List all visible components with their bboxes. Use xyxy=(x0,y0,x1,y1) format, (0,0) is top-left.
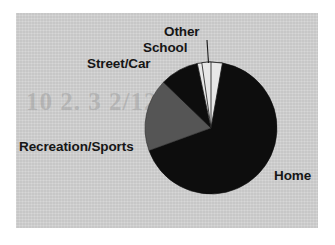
pie-label-other: Other xyxy=(164,24,200,39)
other-leader-line xyxy=(207,40,209,63)
pie-label-street-car: Street/Car xyxy=(87,56,151,71)
pie-label-recreation-sports: Recreation/Sports xyxy=(19,139,134,154)
pie-label-home: Home xyxy=(274,168,311,183)
pie-label-school: School xyxy=(143,40,187,55)
screenshot-root: 10 2. 3 2/12 Other School Street/Car Rec… xyxy=(0,0,335,245)
